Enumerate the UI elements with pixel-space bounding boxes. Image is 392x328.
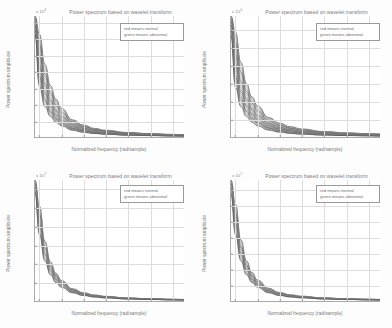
y-tick-mark <box>35 121 37 122</box>
grid-line-horizontal <box>231 270 380 271</box>
x-tick-mark <box>369 135 370 137</box>
subplot-bottom-right[interactable]: x 107 Power spectrum based on wavelet tr… <box>196 164 392 328</box>
x-axis-label: Normalized frequency (rad/sample) <box>230 311 380 316</box>
grid-line-horizontal <box>231 102 380 103</box>
x-tick-mark <box>61 299 62 301</box>
grid-line-horizontal <box>35 72 184 73</box>
grid-line-horizontal <box>35 56 184 57</box>
grid-line-horizontal <box>35 264 184 265</box>
y-tick-mark <box>35 283 37 284</box>
x-tick-mark <box>257 135 258 137</box>
x-axis-label: Normalized frequency (rad/sample) <box>34 311 184 316</box>
x-tick-mark <box>150 299 151 301</box>
y-axis-label: Power spectrum amplitude <box>202 212 207 276</box>
grid-line-horizontal <box>35 246 184 247</box>
grid-line-vertical <box>39 16 40 137</box>
x-tick-mark <box>84 135 85 137</box>
x-tick-mark <box>128 135 129 137</box>
grid-line-horizontal <box>35 208 184 209</box>
grid-line-vertical <box>235 16 236 137</box>
x-tick-mark <box>106 299 107 301</box>
grid-line-horizontal <box>231 222 380 223</box>
spectrum-curve <box>35 193 184 300</box>
y-tick-mark <box>231 48 233 49</box>
legend-box: red means normal green means abnormal <box>120 23 184 41</box>
grid-line-horizontal <box>231 48 380 49</box>
y-tick-mark <box>231 66 233 67</box>
subplot-top-left[interactable]: x 104 Power spectrum based on wavelet tr… <box>0 0 196 164</box>
y-tick-mark <box>231 270 233 271</box>
grid-line-vertical <box>62 16 63 137</box>
x-tick-mark <box>173 135 174 137</box>
spectrum-curve <box>231 24 380 135</box>
y-tick-mark <box>35 39 37 40</box>
y-exponent-label: x 104 <box>232 8 242 14</box>
plot-title: Power spectrum based on wavelet transfor… <box>48 9 193 15</box>
x-tick-mark <box>235 135 236 137</box>
grid-line-horizontal <box>35 89 184 90</box>
y-tick-mark <box>35 264 37 265</box>
subplot-bottom-left[interactable]: x 107 Power spectrum based on wavelet tr… <box>0 164 196 328</box>
y-axis-label: Power spectrum amplitude <box>6 48 11 112</box>
grid-line-vertical <box>302 180 303 301</box>
x-tick-mark <box>173 299 174 301</box>
y-tick-mark <box>231 189 233 190</box>
spectrum-curve <box>35 32 184 136</box>
grid-line-vertical <box>280 180 281 301</box>
grid-line-horizontal <box>231 286 380 287</box>
plot-title: Power spectrum based on wavelet transfor… <box>244 9 389 15</box>
figure-canvas: x 104 Power spectrum based on wavelet tr… <box>0 0 392 328</box>
x-tick-mark <box>324 135 325 137</box>
x-tick-mark <box>280 299 281 301</box>
x-tick-mark <box>257 299 258 301</box>
grid-line-horizontal <box>35 227 184 228</box>
x-tick-mark <box>106 135 107 137</box>
grid-line-vertical <box>258 16 259 137</box>
grid-line-vertical <box>235 180 236 301</box>
grid-line-horizontal <box>231 206 380 207</box>
y-tick-mark <box>231 221 233 222</box>
x-tick-mark <box>39 135 40 137</box>
y-axis-label: Power spectrum amplitude <box>202 48 207 112</box>
grid-line-horizontal <box>35 122 184 123</box>
x-tick-mark <box>346 299 347 301</box>
x-tick-mark <box>369 299 370 301</box>
y-tick-mark <box>35 227 37 228</box>
x-axis-label: Normalized frequency (rad/sample) <box>34 147 184 152</box>
subplot-top-right[interactable]: x 104 Power spectrum based on wavelet tr… <box>196 0 392 164</box>
y-tick-mark <box>231 84 233 85</box>
grid-line-horizontal <box>35 283 184 284</box>
grid-line-horizontal <box>231 120 380 121</box>
grid-line-horizontal <box>35 105 184 106</box>
y-axis-label: Power spectrum amplitude <box>6 212 11 276</box>
x-tick-mark <box>61 135 62 137</box>
x-tick-mark <box>302 135 303 137</box>
y-tick-mark <box>35 208 37 209</box>
x-axis-label: Normalized frequency (rad/sample) <box>230 147 380 152</box>
grid-line-vertical <box>106 16 107 137</box>
y-tick-mark <box>231 238 233 239</box>
y-tick-mark <box>231 286 233 287</box>
y-exponent-label: x 104 <box>36 8 46 14</box>
grid-line-vertical <box>280 16 281 137</box>
legend-box: red means normal green means abnormal <box>316 185 380 203</box>
grid-line-horizontal <box>231 84 380 85</box>
x-tick-mark <box>128 299 129 301</box>
x-tick-mark <box>346 135 347 137</box>
x-tick-mark <box>324 299 325 301</box>
plot-title: Power spectrum based on wavelet transfor… <box>48 173 193 179</box>
y-tick-mark <box>35 72 37 73</box>
legend-entry-abnormal: green means abnormal <box>124 194 180 200</box>
y-tick-mark <box>35 105 37 106</box>
y-tick-mark <box>231 254 233 255</box>
y-tick-mark <box>231 120 233 121</box>
plot-title: Power spectrum based on wavelet transfor… <box>244 173 389 179</box>
legend-entry-abnormal: green means abnormal <box>320 32 376 38</box>
y-exponent-label: x 107 <box>36 172 46 178</box>
x-tick-mark <box>235 299 236 301</box>
y-tick-mark <box>231 30 233 31</box>
y-tick-mark <box>35 245 37 246</box>
grid-line-vertical <box>258 180 259 301</box>
legend-entry-abnormal: green means abnormal <box>124 32 180 38</box>
y-exponent-label: x 107 <box>232 172 242 178</box>
